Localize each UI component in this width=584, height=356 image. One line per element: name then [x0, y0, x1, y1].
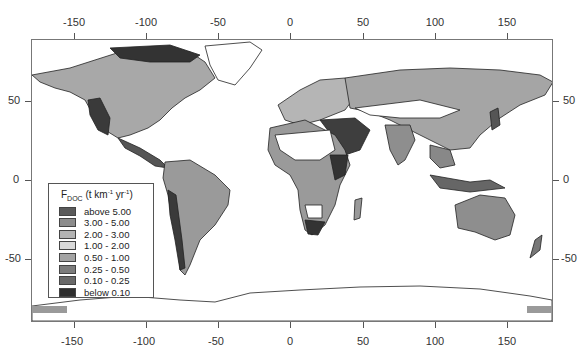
tick [146, 322, 147, 328]
legend-item: 2.00 - 3.00 [55, 229, 147, 241]
tick-label: 0 [13, 173, 19, 185]
tick [25, 259, 31, 260]
legend-item: 0.50 - 1.00 [55, 252, 147, 264]
tick-label: 50 [563, 94, 575, 106]
antarctic-edge-left [32, 306, 67, 313]
legend-title: FDOC (t km-1 yr-1) [61, 189, 147, 202]
tick-label: -50 [208, 335, 224, 347]
tick [507, 33, 508, 39]
antarctic-edge-right [527, 306, 552, 313]
tick-label: 100 [426, 16, 444, 28]
legend-item: 1.00 - 2.00 [55, 240, 147, 252]
indonesia [430, 175, 505, 192]
tick-label: -100 [135, 16, 157, 28]
tick [435, 322, 436, 328]
australia [455, 195, 515, 240]
tick [553, 180, 559, 181]
tick [146, 33, 147, 39]
legend-swatch [59, 207, 76, 216]
world-map [0, 0, 584, 356]
madagascar [354, 198, 362, 220]
legend-item: 0.25 - 0.50 [55, 263, 147, 275]
tick-label: -150 [61, 335, 83, 347]
tick [218, 33, 219, 39]
tick-label: -50 [210, 16, 226, 28]
tick-label: 0 [563, 173, 569, 185]
tick-label: 0 [287, 335, 293, 347]
legend-swatch [59, 241, 76, 250]
tick [25, 101, 31, 102]
legend-item: 3.00 - 5.00 [55, 217, 147, 229]
tick [74, 33, 75, 39]
legend-swatch [59, 218, 76, 227]
central-america [118, 138, 168, 168]
legend-label: above 5.00 [84, 206, 131, 217]
legend: FDOC (t km-1 yr-1) above 5.00 3.00 - 5.0… [48, 183, 154, 298]
india [385, 125, 415, 165]
new-zealand [530, 235, 542, 258]
tick-label: 150 [498, 16, 516, 28]
tick [363, 322, 364, 328]
legend-swatch [59, 253, 76, 262]
tick-label: 50 [357, 335, 369, 347]
tick-label: 50 [357, 16, 369, 28]
tick-label: -50 [561, 252, 577, 264]
tick [553, 259, 559, 260]
legend-item: 0.10 - 0.25 [55, 275, 147, 287]
tick [25, 180, 31, 181]
legend-label: 1.00 - 2.00 [84, 240, 129, 251]
legend-label: 0.25 - 0.50 [84, 264, 129, 275]
legend-label: 0.10 - 0.25 [84, 275, 129, 286]
tick [553, 101, 559, 102]
legend-label: below 0.10 [84, 287, 130, 298]
legend-item: below 0.10 [55, 286, 147, 298]
legend-label: 0.50 - 1.00 [84, 252, 129, 263]
tick-label: -50 [5, 252, 21, 264]
tick [507, 322, 508, 328]
legend-label: 3.00 - 5.00 [84, 217, 129, 228]
legend-swatch [59, 265, 76, 274]
tick [435, 33, 436, 39]
tick-label: 150 [498, 335, 516, 347]
tick [290, 322, 291, 328]
tick [74, 322, 75, 328]
kalahari [305, 205, 322, 218]
southern-africa [305, 220, 325, 235]
tick-label: 100 [426, 335, 444, 347]
legend-swatch [59, 288, 76, 297]
tick-label: 0 [287, 16, 293, 28]
tick-label: 50 [8, 94, 20, 106]
tick [290, 33, 291, 39]
legend-swatch [59, 230, 76, 239]
tick [363, 33, 364, 39]
tick-label: -100 [133, 335, 155, 347]
tick-label: -150 [63, 16, 85, 28]
legend-swatch [59, 276, 76, 285]
legend-item: above 5.00 [55, 205, 147, 217]
tick [218, 322, 219, 328]
japan [490, 108, 500, 130]
legend-label: 2.00 - 3.00 [84, 229, 129, 240]
